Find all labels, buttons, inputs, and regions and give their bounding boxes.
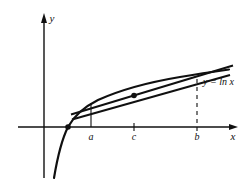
y-axis-arrowhead — [41, 13, 47, 23]
x-axis-label: x — [230, 130, 236, 142]
tick-c: c — [132, 123, 137, 142]
tick-a-label: a — [89, 131, 94, 142]
curve-label: y = ln x — [202, 76, 234, 87]
figure-container: y x a c b y = ln x — [0, 0, 250, 181]
log-curve-diagram: y x a c b y = ln x — [0, 0, 250, 181]
y-axis-label: y — [49, 12, 55, 24]
tangency-dot-at-c — [131, 93, 137, 99]
y-axis — [41, 13, 47, 178]
x-axis — [18, 124, 238, 130]
x-intercept-dot — [65, 124, 71, 130]
tick-c-label: c — [132, 131, 137, 142]
tick-b-label: b — [195, 131, 200, 142]
